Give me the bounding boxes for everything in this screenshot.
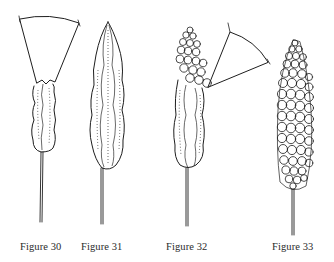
figure-30-drawing [19,16,80,222]
figure-32-drawing [174,23,270,226]
caption-figure-32: Figure 32 [166,241,207,252]
figure-plate: Figure 30 Figure 31 Figure 32 Figure 33 [0,0,334,262]
figure-33-drawing [277,40,313,235]
caption-figure-30: Figure 30 [20,241,61,252]
caption-figure-31: Figure 31 [81,241,122,252]
botanical-illustration [0,0,334,262]
figure-31-drawing [90,22,124,224]
caption-figure-33: Figure 33 [272,241,313,252]
